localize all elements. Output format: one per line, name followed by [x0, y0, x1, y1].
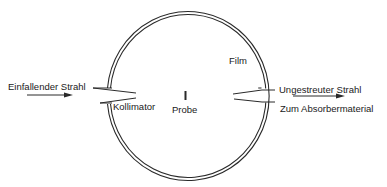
label-incident-beam: Einfallender Strahl [8, 82, 86, 92]
label-collimator: Kollimator [113, 102, 155, 112]
sample-marker [185, 91, 187, 100]
incident-beam-arrow [27, 93, 73, 98]
film-circle [108, 12, 270, 181]
label-to-absorber: Zum Absorbermaterial [280, 104, 373, 114]
label-sample: Probe [172, 105, 197, 115]
label-film: Film [229, 56, 247, 66]
label-unscattered-beam: Ungestreuter Strahl [279, 85, 361, 95]
